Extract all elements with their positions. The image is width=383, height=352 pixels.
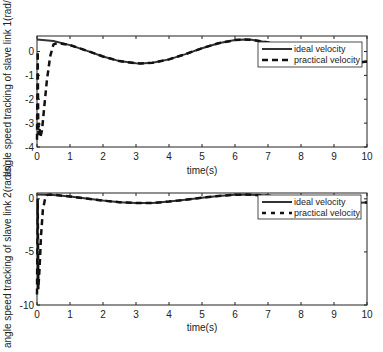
y-tick-label: 0 (28, 46, 34, 57)
x-tick-label: 9 (331, 309, 337, 320)
x-tick-label: 2 (100, 151, 106, 162)
x-tick-label: 9 (331, 151, 337, 162)
y-tick-label: -3 (25, 118, 34, 129)
x-tick-label: 8 (298, 309, 304, 320)
legend-practical-label: practical velocity (294, 55, 361, 65)
x-axis-label: time(s) (187, 165, 218, 176)
x-tick-label: 5 (199, 151, 205, 162)
x-tick-label: 10 (361, 151, 373, 162)
x-tick-label: 2 (100, 309, 106, 320)
x-tick-label: 3 (133, 309, 139, 320)
x-tick-label: 0 (34, 309, 40, 320)
legend-ideal-label: ideal velocity (294, 44, 346, 54)
x-tick-label: 8 (298, 151, 304, 162)
x-tick-label: 3 (133, 151, 139, 162)
y-tick-label: -10 (20, 300, 35, 311)
x-tick-label: 6 (232, 151, 238, 162)
y-tick-label: -2 (25, 94, 34, 105)
legend: ideal velocity practical velocity (258, 42, 362, 67)
x-tick-label: 5 (199, 309, 205, 320)
y-tick-label: -1 (25, 70, 34, 81)
figure: 0-1-2-3-4 012345678910 ideal velocity pr… (0, 0, 383, 352)
x-tick-label: 1 (67, 151, 73, 162)
upper-plot: 0-1-2-3-4 012345678910 ideal velocity pr… (2, 0, 373, 177)
x-axis-label: time(s) (187, 322, 218, 333)
y-tick-label: -5 (25, 246, 34, 257)
x-tick-label: 7 (265, 151, 271, 162)
x-tick-label: 7 (265, 309, 271, 320)
y-axis-label: angle speed tracking of slave link 2(rad… (2, 163, 13, 348)
y-tick-label: 0 (28, 193, 34, 204)
x-tick-label: 1 (67, 309, 73, 320)
x-tick-label: 4 (166, 309, 172, 320)
x-tick-label: 10 (361, 309, 373, 320)
y-axis-label: angle speed tracking of slave link 1(rad… (2, 0, 13, 177)
legend-ideal-label: ideal velocity (294, 197, 346, 207)
x-tick-label: 6 (232, 309, 238, 320)
lower-plot: 0-5-10 012345678910 ideal velocity pract… (2, 163, 373, 348)
legend: ideal velocity practical velocity (258, 195, 361, 219)
x-tick-label: 4 (166, 151, 172, 162)
legend-practical-label: practical velocity (294, 208, 361, 218)
y-tick-label: -4 (25, 142, 34, 153)
x-tick-label: 0 (34, 151, 40, 162)
